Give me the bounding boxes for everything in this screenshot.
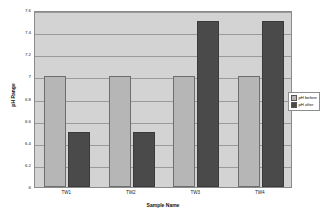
bar [68, 132, 90, 187]
legend-label: pH after [299, 103, 314, 107]
y-axis-tick-label: 7.4 [25, 31, 31, 35]
bar [262, 21, 284, 187]
x-axis-tick-label: TW3 [190, 190, 200, 195]
legend-swatch-icon [291, 95, 297, 101]
bar [133, 132, 155, 187]
chart-legend: pH beforepH after [288, 92, 320, 111]
x-axis-tick-label: TW4 [255, 190, 265, 195]
x-axis-title: Sample Name [34, 202, 292, 208]
y-axis-tick-label: 6.4 [25, 142, 31, 146]
y-axis-tick-label: 6.8 [25, 97, 31, 101]
y-axis-tick-labels: 66.26.46.66.877.27.47.6 [12, 11, 33, 188]
bar-chart: pH Range 66.26.46.66.877.27.47.6 TW1TW2T… [0, 0, 328, 217]
legend-swatch-icon [291, 102, 297, 108]
bar [238, 76, 260, 187]
y-axis-tick-label: 7.2 [25, 53, 31, 57]
y-axis-tick-label: 7 [29, 75, 31, 79]
bars-layer [35, 12, 291, 187]
legend-item: pH before [291, 95, 317, 102]
y-axis-tick-label: 6.2 [25, 164, 31, 168]
bar [44, 76, 66, 187]
legend-item: pH after [291, 102, 317, 109]
x-axis-tick-label: TW2 [126, 190, 136, 195]
y-axis-tick-label: 6 [29, 186, 31, 190]
bar [173, 76, 195, 187]
bar [197, 21, 219, 187]
y-axis-tick-label: 7.6 [25, 9, 31, 13]
bar [109, 76, 131, 187]
plot-area [34, 11, 292, 188]
y-axis-tick-label: 6.6 [25, 119, 31, 123]
legend-label: pH before [299, 96, 317, 100]
x-axis-tick-labels: TW1TW2TW3TW4 [34, 190, 292, 200]
x-axis-tick-label: TW1 [61, 190, 71, 195]
